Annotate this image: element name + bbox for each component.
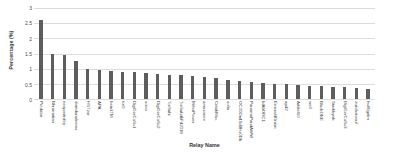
x-tick-label: hwlNgalm [366,101,371,120]
bar-cell [362,8,374,99]
bar-cell [339,8,351,99]
x-tick-cell: sorxx [140,101,152,141]
x-tick-cell: DigiGerCoSx2 [152,101,164,141]
x-tick-label: DigiGerCoSx3 [342,101,347,128]
x-tick-cell: Starkbynb [327,101,339,141]
y-axis-title-text: Percentage (%) [8,31,14,70]
y-tick-label: 0 [29,97,32,103]
bar-cell [164,8,176,99]
x-tick-cell: wo0 [304,101,316,141]
x-tick-label: hein1TM [108,101,113,118]
bar [308,86,311,99]
bar-cell [58,8,70,99]
bar [168,75,171,99]
x-tick-label: zwiebotoouf [354,101,359,124]
bar [121,72,124,99]
bar [238,81,241,99]
x-tick-cell: CritakMax [210,101,222,141]
y-tick-label: 1 [29,66,32,72]
x-tick-label: tor0 [120,101,125,108]
x-tick-label: BlackONE [319,101,324,121]
bar-cell [210,8,222,99]
x-tick-label: TorSubdkFd2018 [179,101,184,134]
x-tick-label: apd2 [284,101,289,111]
bar-cell [152,8,164,99]
x-tick-cell: tor0 [117,101,129,141]
bar-cell [82,8,94,99]
x-tick-label: EmeraldOnion [272,101,277,128]
bar [51,54,54,100]
bar [250,82,253,99]
bar-cell [117,8,129,99]
x-tick-cell: DigiGerCoSx3 [339,101,351,141]
x-tick-label: APA [97,101,102,109]
bar-cell [35,8,47,99]
bar-cell [269,8,281,99]
bar [343,87,346,99]
x-tick-cell: dorridunalnews [70,101,82,141]
x-tick-cell: Artikel10 [292,101,304,141]
x-tick-label: sofia [225,101,230,110]
bar [331,87,334,99]
x-tick-label: HSTzor [85,101,90,116]
bar [98,70,101,99]
x-tick-label: TorSubi [167,101,172,116]
x-tick-cell: hein1TM [105,101,117,141]
x-tick-cell: OCZ0Dn4Sd9Hz0Db [234,101,246,141]
gridline [34,99,375,100]
bar [366,89,369,99]
bar-cell [245,8,257,99]
x-tick-label: amazonee [202,101,207,121]
bar-cell [222,8,234,99]
x-tick-cell: hwlNgalm [362,101,374,141]
x-tick-label: CritakMax [214,101,219,120]
y-tick-label: 3 [29,5,32,11]
x-tick-label: Starkbynb [331,101,336,120]
bar [86,69,89,99]
bar-series [34,8,375,99]
x-axis-title: Relay Name [34,142,375,148]
x-tick-cell: neopostniley [58,101,70,141]
bar [285,84,288,99]
x-tick-label: Artikel10 [295,101,300,118]
bar-chart-figure: Percentage (%) 00.511.522.53 PredatorBhr… [0,0,399,157]
x-tick-label: dorridunalnews [73,101,78,130]
x-tick-cell: TorSubdkFd2018 [175,101,187,141]
x-tick-label: PanamaPandAWW [249,101,254,138]
bar-cell [327,8,339,99]
bar-cell [234,8,246,99]
bar-cell [105,8,117,99]
bar-cell [47,8,59,99]
x-tick-cell: TorSubi [164,101,176,141]
x-tick-label: wo0 [307,101,312,109]
x-tick-cell: apd2 [280,101,292,141]
bar [355,88,358,99]
bar [156,74,159,99]
y-axis-tick-labels: 00.511.522.53 [16,8,33,100]
x-tick-label: bIAbORC1 [260,101,265,122]
bar [144,73,147,99]
bar [226,80,229,99]
bar [179,75,182,99]
y-tick-label: 2 [29,36,32,42]
bar [39,20,42,99]
bar [74,61,77,99]
x-tick-cell: BlackONE [316,101,328,141]
x-tick-cell: MillerPower [187,101,199,141]
bar [203,77,206,99]
x-tick-cell: HSTzor [82,101,94,141]
bar [273,84,276,99]
bar-cell [129,8,141,99]
bar [63,55,66,99]
bar [320,86,323,99]
plot-area [34,8,375,100]
x-tick-cell: Bhramatian [47,101,59,141]
x-tick-label: MillerPower [190,101,195,123]
x-tick-label: Predator [38,101,43,117]
x-tick-cell: APA [93,101,105,141]
bar-cell [93,8,105,99]
x-tick-label: sorxx [144,101,149,111]
x-tick-cell: PanamaPandAWW [245,101,257,141]
bar-cell [257,8,269,99]
x-tick-label: DigiGerCoSx2 [155,101,160,128]
